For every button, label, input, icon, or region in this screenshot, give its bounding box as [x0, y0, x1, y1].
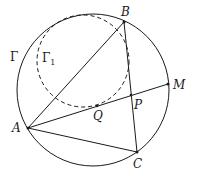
- label-gamma1: Γ1: [42, 51, 55, 67]
- point-a: [27, 127, 30, 130]
- geometry-diagram: A B C M P Q Γ Γ1: [0, 0, 198, 176]
- circle-gamma: [17, 14, 169, 166]
- point-c: [136, 151, 139, 154]
- label-q: Q: [93, 109, 103, 123]
- label-c: C: [133, 157, 142, 171]
- point-p: [130, 94, 133, 97]
- point-b: [123, 21, 126, 24]
- label-b: B: [120, 5, 130, 19]
- point-q: [96, 105, 99, 108]
- point-m: [167, 83, 170, 86]
- label-gamma: Γ: [10, 50, 18, 64]
- label-p: P: [133, 98, 143, 112]
- segment-bc: [124, 22, 137, 152]
- label-m: M: [172, 78, 186, 92]
- segment-ab: [28, 22, 124, 128]
- label-a: A: [11, 121, 21, 135]
